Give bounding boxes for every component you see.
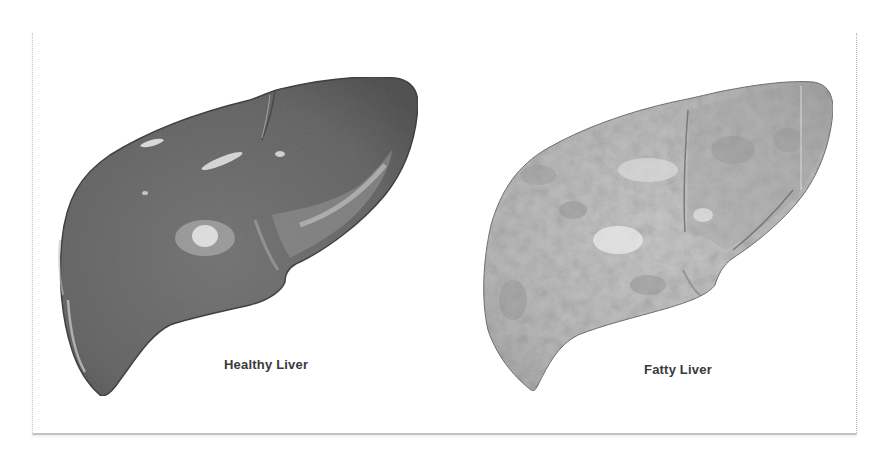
fatty-liver-label: Fatty Liver <box>644 362 712 377</box>
fatty-liver-image <box>443 0 887 459</box>
healthy-liver-label: Healthy Liver <box>224 357 308 372</box>
healthy-liver-image <box>0 0 443 459</box>
healthy-liver-panel: Healthy Liver <box>0 0 443 459</box>
fatty-liver-panel: Fatty Liver <box>443 0 887 459</box>
